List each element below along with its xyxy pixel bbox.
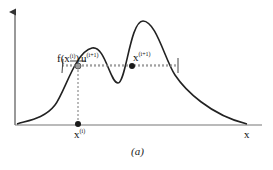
x-next-point [129, 63, 135, 69]
caption: (a) [131, 145, 144, 158]
x-current-point [75, 121, 81, 127]
x-current-label: x(i) [74, 128, 85, 140]
x-next-label: x(i+1) [133, 51, 151, 63]
slice-sampling-diagram: f(x(i)) u(i+1) x(i+1) x(i) x (a) [0, 0, 273, 170]
density-curve [17, 21, 247, 124]
x-axis-label: x [244, 128, 250, 140]
u-label: u(i+1) [81, 52, 99, 64]
f-value-label: f(x(i)) [57, 52, 80, 65]
